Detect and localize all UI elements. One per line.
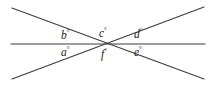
angle-label-e: e° <box>134 46 142 58</box>
angle-label-d: d° <box>134 28 143 40</box>
geometry-lines-canvas <box>0 0 215 87</box>
degree-symbol-c: ° <box>104 26 107 34</box>
degree-symbol-e: ° <box>139 45 142 53</box>
geometry-figure: b° c° d° a° f° e° <box>0 0 215 87</box>
degree-symbol-a: ° <box>67 45 70 53</box>
angle-label-f: f° <box>101 48 107 60</box>
degree-symbol-d: ° <box>140 27 143 35</box>
angle-label-b: b° <box>61 29 70 41</box>
angle-label-a: a° <box>61 46 70 58</box>
degree-symbol-b: ° <box>67 28 70 36</box>
angle-label-c: c° <box>99 27 107 39</box>
degree-symbol-f: ° <box>104 47 107 55</box>
